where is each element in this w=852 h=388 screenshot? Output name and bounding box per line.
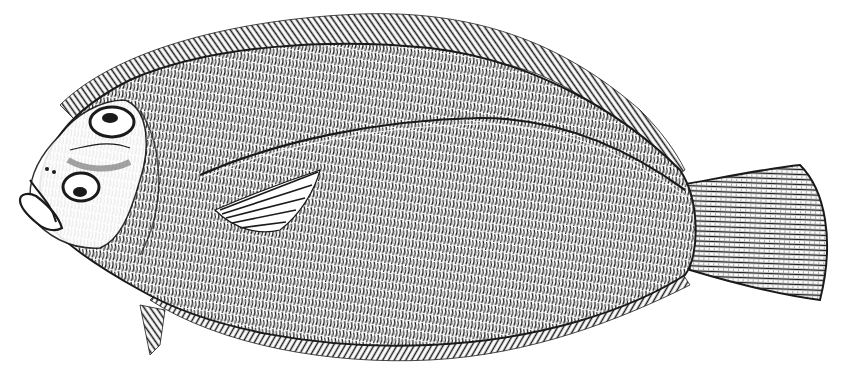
flatfish-illustration: Engraved illustration of a flatfish (flo…: [0, 0, 852, 388]
caudal-fin: [680, 165, 827, 300]
lower-eye: [63, 173, 99, 201]
pelvic-fin: [140, 305, 165, 355]
upper-eye: [90, 107, 134, 137]
